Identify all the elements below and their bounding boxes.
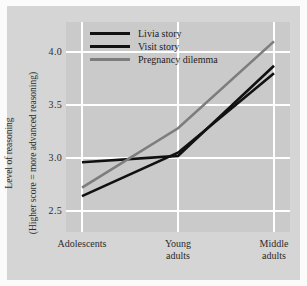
legend-item-pregnancy-dilemma: Pregnancy dilemma xyxy=(90,53,240,66)
x-tick-middle-adults: Middle adults xyxy=(229,238,307,261)
legend-swatch-pregnancy-dilemma xyxy=(90,58,130,61)
chart-figure: 2.5 3.0 3.5 4.0 Adolescents Young adults… xyxy=(0,0,307,286)
legend-label-livia-story: Livia story xyxy=(138,28,182,39)
series-line-livia-story xyxy=(82,66,274,162)
y-axis-label-line2: (Higher score = more advanced reasoning) xyxy=(27,48,39,258)
legend-swatch-visit-story xyxy=(90,45,130,48)
y-axis-label: Level of reasoning (Higher score = more … xyxy=(0,48,51,258)
y-axis-label-line1: Level of reasoning xyxy=(3,48,15,258)
x-tick-young-adults: Young adults xyxy=(133,238,223,261)
legend-label-visit-story: Visit story xyxy=(138,41,179,52)
legend-swatch-livia-story xyxy=(90,32,130,35)
legend: Livia story Visit story Pregnancy dilemm… xyxy=(90,27,240,66)
legend-item-livia-story: Livia story xyxy=(90,27,240,40)
legend-label-pregnancy-dilemma: Pregnancy dilemma xyxy=(138,54,218,65)
legend-item-visit-story: Visit story xyxy=(90,40,240,53)
